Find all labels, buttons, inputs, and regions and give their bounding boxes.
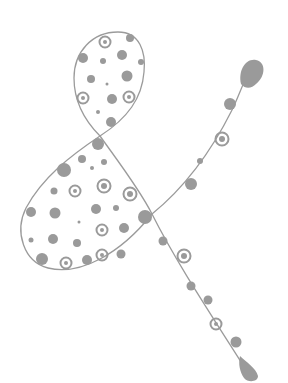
polka-dot [197, 158, 203, 164]
polka-dot [36, 253, 48, 265]
stem-teardrop [239, 356, 258, 381]
polka-dot [122, 71, 133, 82]
polka-dot [185, 178, 197, 190]
polka-dot [107, 94, 117, 104]
polka-dot [48, 234, 58, 244]
polka-dot [73, 239, 81, 247]
ring-dot-center [127, 191, 133, 197]
polka-dot [29, 238, 34, 243]
polka-dot [90, 166, 94, 170]
polka-dot [106, 117, 116, 127]
ring-dot-center [181, 253, 187, 259]
ring-dot-center [100, 253, 104, 257]
polka-dot [231, 337, 242, 348]
polka-dots [26, 34, 242, 348]
polka-dot [106, 83, 109, 86]
ring-dot-center [103, 40, 107, 44]
polka-dot [82, 255, 92, 265]
ring-dot-center [214, 322, 218, 326]
polka-dot [117, 50, 127, 60]
polka-dot [204, 296, 213, 305]
ring-dot-center [101, 183, 107, 189]
polka-dot [50, 208, 61, 219]
ampersand-drawing [0, 0, 288, 383]
polka-dot [51, 188, 58, 195]
polka-dot [100, 58, 106, 64]
polka-dot [138, 210, 152, 224]
ampersand-illustration [0, 0, 288, 383]
polka-dot [113, 205, 119, 211]
polka-dot [96, 110, 100, 114]
polka-dot [187, 282, 196, 291]
polka-dot [138, 59, 144, 65]
polka-dot [87, 75, 95, 83]
polka-dot [224, 98, 236, 110]
polka-dot [78, 53, 88, 63]
polka-dot [159, 237, 168, 246]
polka-dot [91, 204, 101, 214]
polka-dot [101, 159, 107, 165]
ring-dot-center [73, 189, 77, 193]
ring-dot-center [81, 96, 85, 100]
polka-dot [26, 207, 36, 217]
ring-dot-center [219, 136, 225, 142]
ring-dot-center [127, 95, 131, 99]
polka-dot [78, 155, 86, 163]
polka-dot [57, 163, 71, 177]
ring-dot-center [100, 228, 104, 232]
polka-dot [119, 223, 129, 233]
lower-loop-outline [21, 136, 152, 270]
polka-dot [92, 138, 104, 150]
polka-dot [117, 250, 126, 259]
tail-teardrop [240, 60, 263, 88]
polka-dot [126, 34, 134, 42]
ring-dot-center [64, 261, 68, 265]
polka-dot [78, 221, 81, 224]
